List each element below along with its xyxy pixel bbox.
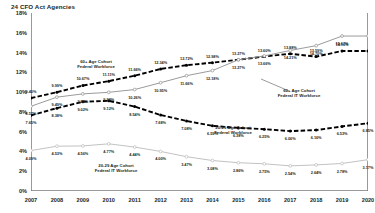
series-2-marker-10 xyxy=(289,130,292,133)
y-tick-6: 6% xyxy=(7,129,27,135)
series-1-marker-3 xyxy=(107,91,110,94)
series-annotation-1-line2: Federal IT Workforce xyxy=(278,93,321,98)
data-label-s0-2016: 13.60% xyxy=(258,47,271,52)
series-1-marker-5 xyxy=(159,81,162,84)
y-tick-18: 18% xyxy=(7,10,27,16)
x-tick-2012: 2012 xyxy=(148,197,174,203)
y-tick-4: 4% xyxy=(7,148,27,154)
y-tick-12: 12% xyxy=(7,69,27,75)
series-2-marker-4 xyxy=(133,105,136,108)
y-tick-8: 8% xyxy=(7,109,27,115)
series-0-marker-3 xyxy=(107,80,110,83)
data-label-s2-2013: 7.08% xyxy=(181,125,192,130)
series-3-marker-6 xyxy=(185,155,188,158)
data-label-s1-2007: 8.57% xyxy=(26,111,37,116)
data-label-s0-2012: 12.34% xyxy=(154,59,167,64)
x-tick-2010: 2010 xyxy=(96,197,122,203)
series-annotation-3-line2: Federal IT Workforce xyxy=(95,168,138,173)
series-0-marker-12 xyxy=(341,49,344,52)
data-label-s1-2009: 9.82% xyxy=(77,98,88,103)
y-tick-2: 2% xyxy=(7,168,27,174)
data-label-s1-2018: 14.70% xyxy=(310,50,323,55)
series-0-marker-6 xyxy=(185,64,188,67)
series-annotation-0-line2: Federal Workforce xyxy=(77,64,115,69)
data-label-s1-2015: 13.27% xyxy=(232,64,245,69)
series-2-marker-12 xyxy=(341,125,344,128)
series-annotation-2: 20-29 Age CohortFederal Workforce xyxy=(214,125,252,136)
data-label-s0-2007: 9.40% xyxy=(26,89,37,94)
data-label-s0-2010: 11.11% xyxy=(103,72,115,77)
data-label-s3-2009: 4.56% xyxy=(77,150,88,155)
data-label-s2-2020: 6.85% xyxy=(363,128,374,133)
data-label-s3-2014: 3.08% xyxy=(207,165,218,170)
series-3-marker-5 xyxy=(159,150,162,153)
data-label-s2-2017: 6.06% xyxy=(285,136,296,141)
data-label-s3-2010: 4.77% xyxy=(103,148,114,153)
series-3-marker-9 xyxy=(263,162,266,165)
series-1-marker-10 xyxy=(289,49,292,52)
y-tick-14: 14% xyxy=(7,50,27,56)
data-label-s0-2015: 13.27% xyxy=(232,50,245,55)
series-3-marker-13 xyxy=(367,158,368,161)
data-label-s3-2017: 2.54% xyxy=(285,170,296,175)
data-label-s2-2018: 6.16% xyxy=(311,135,322,140)
series-3-marker-12 xyxy=(341,162,344,165)
series-annotation-2-line2: Federal Workforce xyxy=(214,130,252,135)
data-label-s1-2013: 11.66% xyxy=(180,80,193,85)
data-label-s3-2016: 2.75% xyxy=(259,168,270,173)
series-3-marker-10 xyxy=(289,164,292,167)
data-label-s2-2007: 7.65% xyxy=(26,120,37,125)
series-1-marker-9 xyxy=(263,55,266,58)
x-tick-2007: 2007 xyxy=(18,197,44,203)
series-0-marker-7 xyxy=(211,61,214,64)
series-1-marker-1 xyxy=(56,96,59,99)
series-2-marker-11 xyxy=(315,129,318,132)
data-label-s1-2010: 9.98% xyxy=(103,97,114,102)
series-1-marker-4 xyxy=(133,88,136,91)
x-tick-2019: 2019 xyxy=(329,197,355,203)
series-3-marker-1 xyxy=(56,145,59,148)
series-0-marker-2 xyxy=(81,84,84,87)
series-1-marker-12 xyxy=(341,35,344,38)
data-label-s3-2015: 2.86% xyxy=(233,167,244,172)
data-label-s1-2012: 10.95% xyxy=(154,87,167,92)
x-tick-2014: 2014 xyxy=(199,197,225,203)
x-tick-2020: 2020 xyxy=(355,197,375,203)
x-tick-2009: 2009 xyxy=(70,197,96,203)
chart-container: 24 CFO Act Agencies 0%2%4%6%8%10%12%14%1… xyxy=(0,0,375,213)
y-tick-0: 0% xyxy=(7,188,27,194)
series-1-marker-8 xyxy=(237,58,240,61)
y-tick-16: 16% xyxy=(7,30,27,36)
data-label-s0-2009: 10.67% xyxy=(76,76,89,81)
series-1-marker-13 xyxy=(367,35,368,38)
data-label-s3-2019: 2.78% xyxy=(337,168,348,173)
series-2-marker-13 xyxy=(367,122,369,125)
data-label-s2-2016: 6.25% xyxy=(259,134,270,139)
data-label-s1-2017: 14.21% xyxy=(284,55,297,60)
series-2-marker-9 xyxy=(263,128,266,131)
data-label-s2-2012: 7.68% xyxy=(155,120,166,125)
series-2-marker-5 xyxy=(159,114,162,117)
series-3-marker-7 xyxy=(211,159,214,162)
data-label-s2-2008: 8.38% xyxy=(52,113,63,118)
data-label-s0-2014: 12.98% xyxy=(206,53,219,58)
data-label-s2-2009: 9.02% xyxy=(77,106,88,111)
series-annotation-1: 60+ Age CohortFederal IT Workforce xyxy=(278,88,321,99)
x-tick-2017: 2017 xyxy=(277,197,303,203)
data-label-s1-2016: 13.66% xyxy=(258,60,271,65)
data-label-s3-2018: 2.64% xyxy=(311,169,322,174)
series-1-marker-0 xyxy=(31,105,32,108)
data-label-s1-2008: 9.49% xyxy=(52,102,63,107)
data-label-s3-2020: 3.17% xyxy=(363,164,374,169)
series-3-marker-4 xyxy=(133,146,136,149)
series-2-marker-1 xyxy=(55,107,58,110)
series-1-marker-7 xyxy=(211,69,214,72)
data-label-s1-2019: 15.67% xyxy=(336,41,349,46)
series-2-marker-6 xyxy=(185,119,188,122)
x-tick-2016: 2016 xyxy=(251,197,277,203)
data-label-s3-2012: 4.00% xyxy=(155,156,166,161)
series-0-marker-1 xyxy=(55,91,58,94)
data-label-s1-2011: 10.26% xyxy=(128,94,141,99)
chart-title: 24 CFO Act Agencies xyxy=(11,3,75,10)
data-label-s3-2011: 4.44% xyxy=(129,152,140,157)
